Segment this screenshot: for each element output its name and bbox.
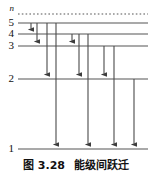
level-1-label: 1 — [0, 143, 14, 154]
energy-level-figure: n54321 图 3.28能级间跃迁 — [0, 0, 152, 179]
caption-title: 能级间跃迁 — [74, 159, 129, 172]
level-3-label: 3 — [0, 40, 14, 51]
energy-level-diagram: n54321 — [0, 0, 152, 157]
caption-number: 图 3.28 — [23, 159, 65, 172]
ionization-limit-label: n — [0, 4, 14, 13]
level-4-label: 4 — [0, 28, 14, 39]
transition-arrows-group — [31, 23, 134, 143]
energy-level-canvas — [0, 0, 152, 157]
figure-caption: 图 3.28能级间跃迁 — [0, 159, 152, 173]
level-2-label: 2 — [0, 73, 14, 84]
